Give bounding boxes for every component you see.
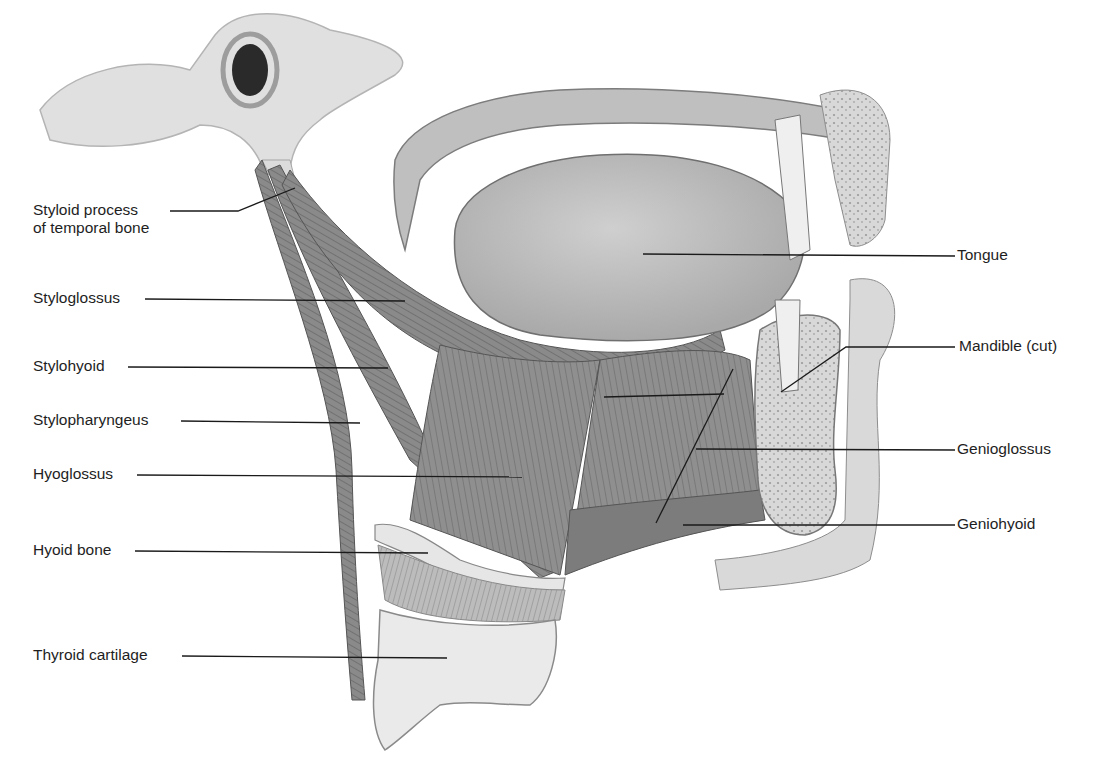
thyroid-cartilage-shape xyxy=(374,610,557,750)
temporal-bone xyxy=(40,14,403,175)
label-geniohyoid: Geniohyoid xyxy=(957,515,1035,533)
label-thyroid-cartilage: Thyroid cartilage xyxy=(33,646,148,664)
ear-canal xyxy=(232,44,268,96)
label-genioglossus: Genioglossus xyxy=(957,440,1051,458)
tongue-body xyxy=(454,154,804,341)
label-styloid-process: Styloid process of temporal bone xyxy=(33,201,149,237)
label-tongue: Tongue xyxy=(957,246,1008,264)
label-mandible: Mandible (cut) xyxy=(959,337,1057,355)
label-stylohyoid: Stylohyoid xyxy=(33,357,105,375)
anatomy-illustration xyxy=(0,0,1096,773)
label-styloglossus: Styloglossus xyxy=(33,289,120,307)
label-hyoid-bone: Hyoid bone xyxy=(33,541,111,559)
label-stylopharyngeus: Stylopharyngeus xyxy=(33,411,148,429)
label-hyoglossus: Hyoglossus xyxy=(33,465,113,483)
